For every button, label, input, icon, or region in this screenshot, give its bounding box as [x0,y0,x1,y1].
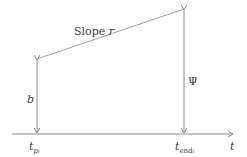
t-axis-label: t [230,141,234,152]
t-end-label: tendi [175,141,194,155]
b-label: b [27,94,34,105]
diagram-canvas [0,0,247,157]
t-p-label: tpi [29,141,40,155]
psi-label: Ψ [188,76,198,87]
slope-label: Slope r [74,26,114,37]
